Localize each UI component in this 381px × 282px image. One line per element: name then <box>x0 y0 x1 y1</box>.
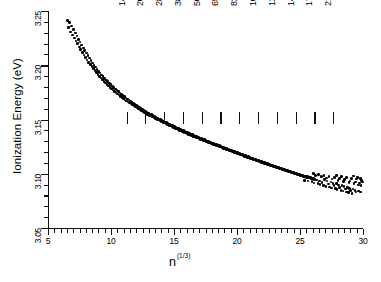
y-axis-title: Ionization Energy (eV) <box>11 36 23 196</box>
data-point <box>354 181 357 184</box>
data-points-layer <box>0 0 381 282</box>
data-point <box>340 175 343 178</box>
series-annotation-label: 14993 <box>286 0 296 6</box>
series-annotation-leader <box>333 112 334 124</box>
series-annotation-leader <box>314 112 315 124</box>
series-annotation-leader <box>296 112 297 124</box>
data-point <box>68 21 71 24</box>
series-annotation-label: 2869 <box>154 0 164 6</box>
series-annotation-label: 12431 <box>267 0 277 6</box>
data-point <box>343 178 346 181</box>
data-point <box>303 179 306 182</box>
data-point <box>319 183 322 186</box>
x-axis-title-base: n <box>169 255 176 269</box>
data-point <box>342 190 345 193</box>
data-point <box>350 177 353 180</box>
series-annotation-leader <box>164 112 165 124</box>
data-point <box>330 187 333 190</box>
data-point <box>359 191 362 194</box>
x-axis-title-exponent: (1/3) <box>177 252 190 259</box>
data-point <box>67 26 70 29</box>
x-axis-title: n(1/3) <box>169 255 189 269</box>
data-point <box>74 32 77 35</box>
series-annotation-label: 6525 <box>210 0 220 6</box>
data-point <box>72 28 75 31</box>
series-annotation-label: 17885 <box>304 0 314 6</box>
series-annotation-leader <box>220 112 221 124</box>
ionization-energy-scatter-figure: 510152025303.053.103.153.203.25 14152057… <box>0 0 381 282</box>
series-annotation-leader <box>239 112 240 124</box>
data-point <box>345 176 348 179</box>
series-annotation-label: 1415 <box>117 0 127 6</box>
data-point <box>79 41 82 44</box>
data-point <box>335 174 338 177</box>
series-annotation-label: 2057 <box>135 0 145 6</box>
data-point <box>325 185 328 188</box>
series-annotation-leader <box>258 112 259 124</box>
data-point <box>76 35 79 38</box>
data-point <box>313 182 316 185</box>
data-point <box>307 180 310 183</box>
series-annotation-leader <box>202 112 203 124</box>
series-annotation-label: 21127 <box>323 0 333 6</box>
series-annotation-leader <box>183 112 184 124</box>
data-point <box>360 184 363 187</box>
data-point <box>328 175 331 178</box>
series-annotation-label: 5083 <box>192 0 202 6</box>
data-point <box>71 34 74 37</box>
series-annotation-leader <box>127 112 128 124</box>
series-annotation-leader <box>145 112 146 124</box>
data-point <box>317 173 320 176</box>
data-point <box>312 172 315 175</box>
data-point <box>349 180 352 183</box>
series-annotation-label: 3871 <box>173 0 183 6</box>
series-annotation-leader <box>277 112 278 124</box>
series-annotation-label: 10179 <box>248 0 258 6</box>
data-point <box>70 25 73 28</box>
data-point <box>323 174 326 177</box>
data-point <box>351 192 354 195</box>
series-annotation-label: 8217 <box>229 0 239 6</box>
data-point <box>73 37 76 40</box>
data-point <box>327 183 330 186</box>
data-point <box>361 181 364 184</box>
data-point <box>347 191 350 194</box>
